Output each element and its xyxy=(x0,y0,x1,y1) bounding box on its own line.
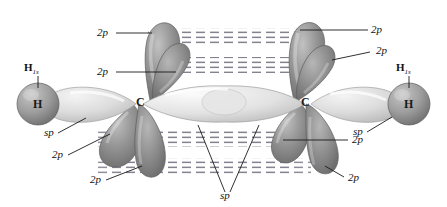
label-sp-left: sp xyxy=(44,127,54,138)
label-2p-bottom-left-inner: 2p xyxy=(52,149,63,160)
orbital-diagram-figure: H1s H1s H H C C 2p 2p 2p 2p 2p 2p 2p 2p … xyxy=(0,0,447,207)
label-h1s-right: H1s xyxy=(396,62,411,76)
atom-label-carbon-left: C xyxy=(136,96,145,108)
label-2p-bottom-right-outer: 2p xyxy=(348,172,359,183)
p-orbital-lobe-bottom-left-outer xyxy=(135,104,166,177)
leader-2p-top-right-inner xyxy=(332,52,370,60)
atom-label-hydrogen-right: H xyxy=(404,98,413,110)
sigma-bond-sp-sp-overlap xyxy=(143,86,305,122)
label-2p-top-right-outer: 2p xyxy=(371,24,382,35)
label-2p-top-right-inner: 2p xyxy=(376,45,387,56)
label-h1s-left: H1s xyxy=(24,62,39,76)
label-sp-center: sp xyxy=(220,190,230,201)
label-sp-right: sp xyxy=(353,126,363,137)
label-2p-top-left-outer: 2p xyxy=(97,27,108,38)
atom-label-carbon-right: C xyxy=(301,96,310,108)
label-2p-bottom-left-outer: 2p xyxy=(90,174,101,185)
label-2p-top-left-inner: 2p xyxy=(97,66,108,77)
atom-label-hydrogen-left: H xyxy=(33,98,42,110)
